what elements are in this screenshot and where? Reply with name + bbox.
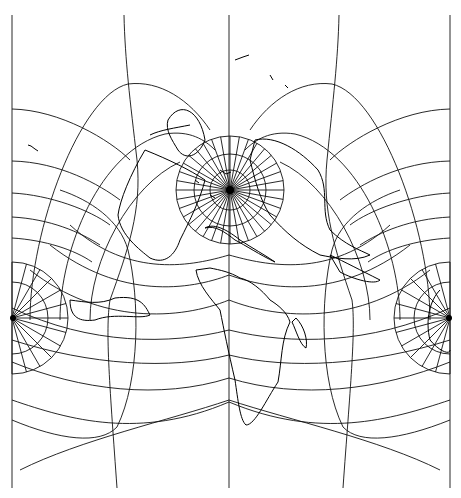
north-pole-marker — [226, 186, 234, 194]
left-pole-marker — [10, 315, 16, 321]
north-america-coast — [118, 150, 205, 260]
map-frame — [12, 15, 450, 488]
right-pole-marker — [446, 315, 452, 321]
right-radials — [394, 262, 450, 374]
japan-coast — [235, 55, 288, 88]
parallel-arcs — [12, 83, 450, 470]
world-map — [0, 0, 461, 498]
madagascar-coast — [292, 318, 307, 348]
left-radials — [12, 262, 68, 374]
africa-coast — [196, 268, 290, 425]
meridians — [108, 15, 353, 488]
hawaii-islands — [28, 145, 38, 151]
asia-coast — [250, 139, 370, 259]
